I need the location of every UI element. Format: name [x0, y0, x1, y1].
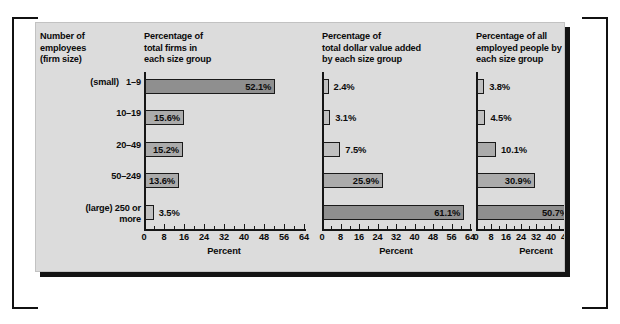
bar	[477, 110, 485, 125]
x-tick-label: 56	[446, 232, 456, 242]
x-tick-label: 48	[259, 232, 269, 242]
bar-row: 7.5%	[323, 135, 480, 166]
bar	[323, 79, 329, 94]
x-tick-label: 0	[473, 232, 478, 242]
x-tick-label: 24	[199, 232, 209, 242]
bar-value-label: 3.5%	[159, 205, 180, 220]
row-label-line: 50–249	[41, 171, 141, 182]
bar-value-label: 25.9%	[323, 173, 379, 188]
chart-title-2: Percentage oftotal dollar value addedby …	[322, 31, 421, 66]
row-label-2: 10–19	[41, 108, 141, 119]
x-tick-minor	[544, 226, 545, 229]
bar-row: 10.1%	[477, 135, 565, 166]
x-tick-minor	[514, 226, 515, 229]
x-tick-major	[491, 224, 492, 230]
bar-value-label: 13.6%	[145, 173, 175, 188]
x-tick-minor	[368, 226, 369, 229]
row-label-header-line: Number of	[40, 31, 142, 43]
x-tick-minor	[442, 226, 443, 229]
x-tick-minor	[254, 226, 255, 229]
chart-title-1: Percentage oftotal firms ineach size gro…	[144, 31, 211, 66]
bar-row: 13.6%	[145, 166, 316, 197]
chart-panel-2: Percentage oftotal dollar value addedby …	[322, 29, 480, 267]
x-tick-minor	[154, 226, 155, 229]
x-tick-label: 64	[299, 232, 309, 242]
x-axis-title: Percent	[207, 245, 241, 256]
bar-row: 30.9%	[477, 166, 565, 197]
x-tick-label: 16	[179, 232, 189, 242]
x-tick-major	[164, 224, 165, 230]
x-tick-major	[341, 224, 342, 230]
x-tick-label: 32	[391, 232, 401, 242]
x-tick-major	[470, 224, 471, 230]
x-tick-major	[378, 224, 379, 230]
bar-value-label: 4.5%	[490, 110, 511, 125]
x-tick-label: 16	[354, 232, 364, 242]
x-tick-major	[264, 224, 265, 230]
bar-value-label: 3.1%	[335, 110, 356, 125]
bar-row: 3.1%	[323, 103, 480, 134]
x-tick-label: 32	[219, 232, 229, 242]
row-label-3: 20–49	[41, 140, 141, 151]
x-tick-major	[536, 224, 537, 230]
x-tick-major	[521, 224, 522, 230]
x-tick-label: 40	[409, 232, 419, 242]
bar-row: 61.1%	[323, 198, 480, 229]
x-tick-label: 8	[488, 232, 493, 242]
row-label-line: 20–49	[41, 140, 141, 151]
x-tick-minor	[214, 226, 215, 229]
x-tick-minor	[234, 226, 235, 229]
bar-row: 25.9%	[323, 166, 480, 197]
bar	[323, 110, 330, 125]
frame-bracket-right	[582, 17, 608, 309]
row-label-line: more	[41, 214, 141, 225]
chart-title-line: Percentage of	[322, 31, 421, 43]
x-axis-rule	[144, 229, 306, 231]
bar-row: 52.1%	[145, 72, 316, 103]
x-axis-1: 0816243240485664Percent	[144, 229, 316, 263]
bar-row: 4.5%	[477, 103, 565, 134]
x-tick-label: 40	[546, 232, 556, 242]
bar	[477, 142, 496, 157]
x-tick-major	[322, 224, 323, 230]
x-tick-minor	[405, 226, 406, 229]
x-tick-minor	[484, 226, 485, 229]
chart-title-line: each size group	[476, 54, 562, 66]
row-label-line: (small) 1–9	[41, 77, 141, 88]
x-tick-label: 32	[531, 232, 541, 242]
x-tick-minor	[294, 226, 295, 229]
plot-area-2: 2.4%3.1%7.5%25.9%61.1%	[322, 72, 480, 229]
x-tick-major	[433, 224, 434, 230]
row-label-5: (large) 250 ormore	[41, 203, 141, 225]
x-tick-minor	[461, 226, 462, 229]
bar-row: 3.5%	[145, 198, 316, 229]
bar-value-label: 52.1%	[145, 79, 271, 94]
x-tick-major	[452, 224, 453, 230]
x-tick-minor	[331, 226, 332, 229]
chart-panel-1: Percentage oftotal firms ineach size gro…	[144, 29, 316, 267]
x-tick-major	[396, 224, 397, 230]
bar-value-label: 7.5%	[345, 142, 366, 157]
x-tick-minor	[274, 226, 275, 229]
x-tick-label: 24	[372, 232, 382, 242]
x-tick-major	[224, 224, 225, 230]
bar-value-label: 15.2%	[145, 142, 179, 157]
chart-title-line: by each size group	[322, 54, 421, 66]
x-tick-major	[506, 224, 507, 230]
x-tick-major	[144, 224, 145, 230]
x-axis-title: Percent	[379, 245, 413, 256]
x-tick-label: 8	[338, 232, 343, 242]
x-tick-label: 48	[428, 232, 438, 242]
x-tick-minor	[529, 226, 530, 229]
x-tick-label: 16	[501, 232, 511, 242]
bar-row: 15.6%	[145, 103, 316, 134]
bar-row: 2.4%	[323, 72, 480, 103]
x-tick-major	[415, 224, 416, 230]
chart-title-line: employed people by	[476, 43, 562, 55]
plot-area-3: 3.8%4.5%10.1%30.9%50.7%	[476, 72, 565, 229]
x-tick-major	[184, 224, 185, 230]
x-tick-label: 0	[319, 232, 324, 242]
x-tick-major	[244, 224, 245, 230]
bar	[477, 79, 484, 94]
bar-value-label: 50.7%	[477, 205, 565, 220]
